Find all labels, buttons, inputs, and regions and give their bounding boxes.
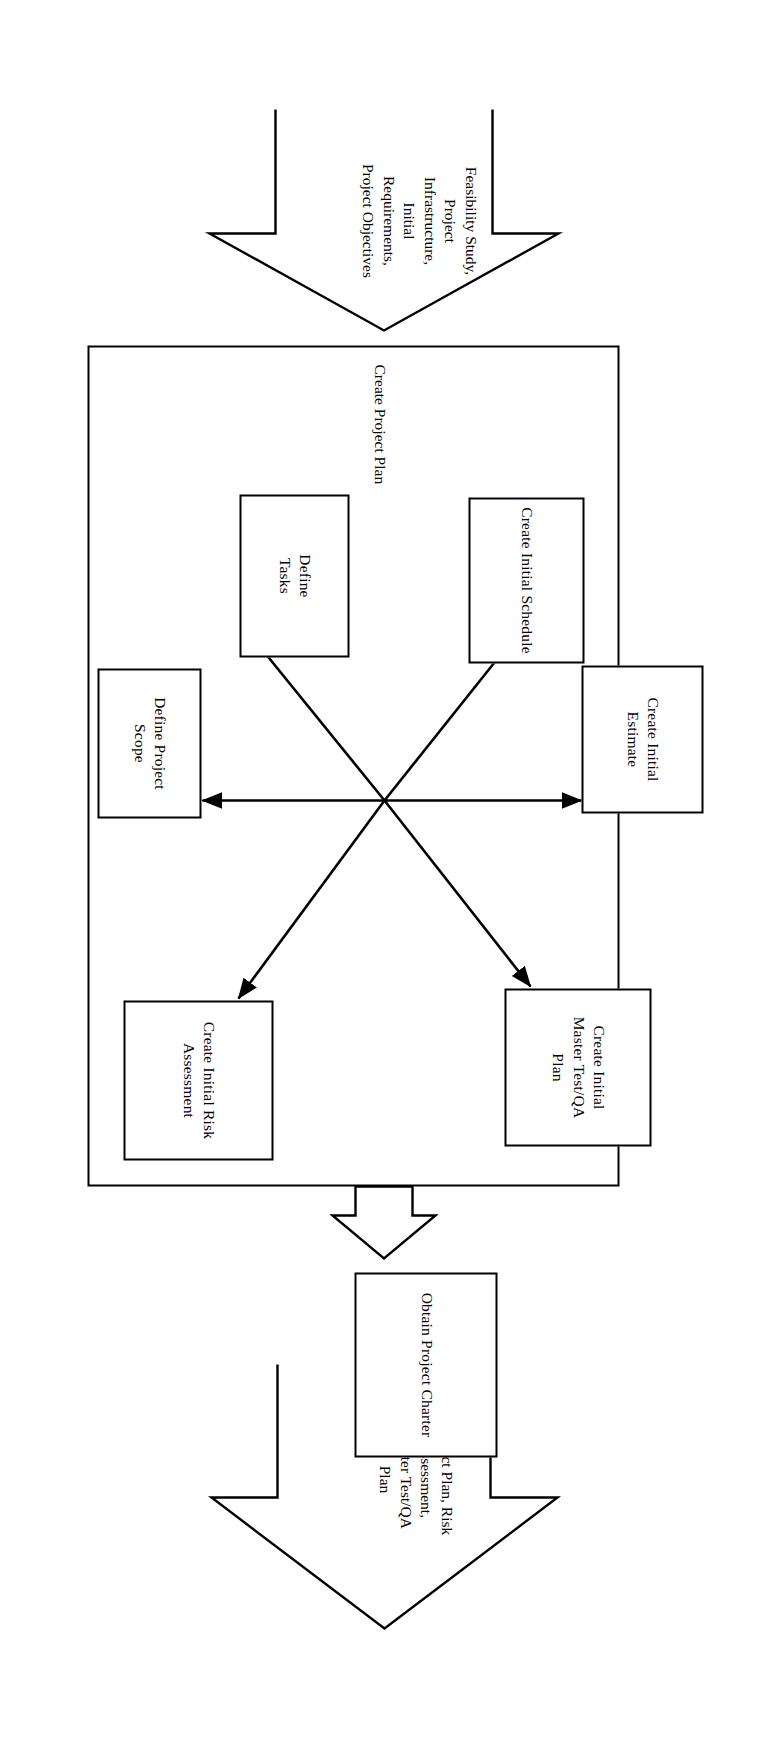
diagram-page: Feasibility Study, Project Infrastructur… <box>0 0 767 1738</box>
node-define-project-scope[interactable]: Define Project Scope <box>97 668 201 818</box>
node-create-initial-schedule[interactable]: Create Initial Schedule <box>468 497 584 663</box>
node-create-initial-estimate[interactable]: Create Initial Estimate <box>581 665 703 813</box>
diagram-stage: Feasibility Study, Project Infrastructur… <box>0 0 767 1738</box>
connector-arrow[interactable] <box>332 1186 435 1258</box>
node-define-tasks[interactable]: Define Tasks <box>239 494 349 657</box>
create-project-plan-group-label: Create Project Plan <box>370 364 388 484</box>
input-arrow-label: Feasibility Study, Project Infrastructur… <box>356 118 480 323</box>
node-create-initial-risk-assessment[interactable]: Create Initial Risk Assessment <box>123 1000 273 1160</box>
node-create-initial-master-test-qa-plan[interactable]: Create Initial Master Test/QA Plan <box>504 988 651 1146</box>
node-obtain-project-charter[interactable]: Obtain Project Charter <box>354 1272 497 1457</box>
